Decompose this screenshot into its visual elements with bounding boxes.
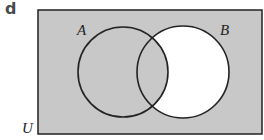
set-a-label: A: [76, 22, 87, 38]
venn-diagram: A B U: [0, 0, 264, 140]
set-b-label: B: [220, 22, 229, 38]
universe-label: U: [22, 120, 34, 136]
